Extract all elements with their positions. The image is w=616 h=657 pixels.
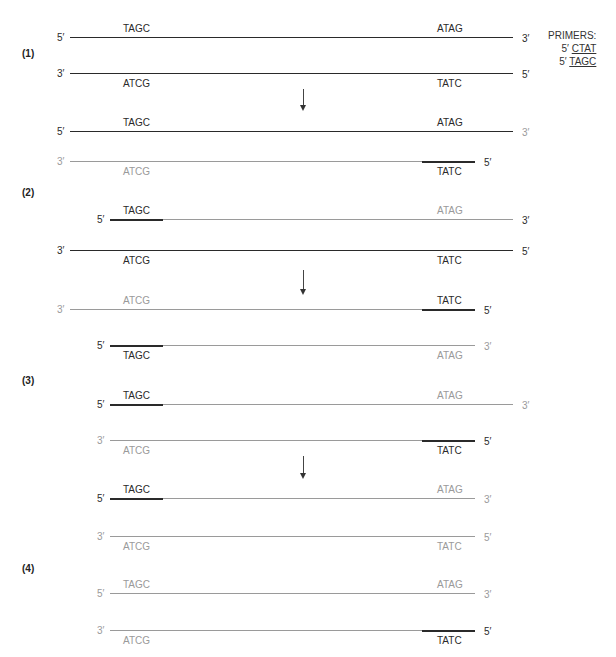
strand-left-end: 3′	[57, 245, 64, 257]
strand-right-end: 5′	[522, 246, 529, 258]
dna-strand	[70, 131, 513, 132]
primer-segment	[422, 630, 475, 632]
dna-strand	[110, 404, 513, 405]
dna-strand	[110, 440, 475, 441]
strand-left-end: 3′	[57, 304, 64, 316]
strand-left-end: 5′	[97, 399, 104, 411]
left-sequence: TAGC	[123, 484, 150, 496]
primer-2: 5′ TAGC	[548, 55, 596, 68]
primer-1-seq: CTAT	[572, 43, 597, 54]
right-sequence: TATC	[437, 445, 462, 457]
primer-2-end: 5′	[559, 56, 566, 67]
dna-strand	[110, 630, 475, 631]
strand-right-end: 5′	[484, 305, 491, 317]
down-arrow-icon	[303, 89, 304, 106]
dna-strand	[70, 309, 475, 310]
left-sequence: TAGC	[123, 117, 150, 129]
left-sequence: TAGC	[123, 390, 150, 402]
step-label: (2)	[22, 187, 34, 198]
right-sequence: ATAG	[437, 390, 463, 402]
left-sequence: ATCG	[123, 541, 150, 553]
primer-segment	[422, 309, 475, 311]
strand-left-end: 5′	[57, 126, 64, 138]
right-sequence: TATC	[437, 166, 462, 178]
strand-right-end: 5′	[522, 69, 529, 81]
strand-right-end: 5′	[484, 436, 491, 448]
dna-strand	[110, 593, 475, 594]
primers-title: PRIMERS:	[548, 29, 596, 42]
strand-left-end: 3′	[57, 68, 64, 80]
right-sequence: TATC	[437, 635, 462, 647]
left-sequence: TAGC	[123, 23, 150, 35]
strand-right-end: 5′	[484, 626, 491, 638]
strand-right-end: 3′	[522, 127, 529, 139]
primer-segment	[110, 219, 163, 221]
left-sequence: ATCG	[123, 166, 150, 178]
strand-left-end: 5′	[97, 214, 104, 226]
primers-legend: PRIMERS: 5′ CTAT 5′ TAGC	[548, 29, 596, 68]
left-sequence: TAGC	[123, 579, 150, 591]
right-sequence: TATC	[437, 295, 462, 307]
primer-segment	[110, 345, 163, 347]
step-label: (1)	[22, 48, 34, 59]
strand-left-end: 3′	[97, 531, 104, 543]
strand-left-end: 5′	[97, 588, 104, 600]
right-sequence: TATC	[437, 541, 462, 553]
strand-left-end: 5′	[97, 340, 104, 352]
strand-right-end: 3′	[522, 215, 529, 227]
left-sequence: ATCG	[123, 78, 150, 90]
dna-strand	[70, 73, 513, 74]
primer-segment	[422, 161, 475, 163]
down-arrow-icon	[303, 456, 304, 474]
strand-left-end: 3′	[97, 625, 104, 637]
left-sequence: TAGC	[123, 205, 150, 217]
dna-strand	[70, 161, 475, 162]
strand-right-end: 3′	[522, 400, 529, 412]
dna-strand	[70, 250, 513, 251]
left-sequence: ATCG	[123, 635, 150, 647]
right-sequence: ATAG	[437, 579, 463, 591]
primer-1: 5′ CTAT	[548, 42, 596, 55]
strand-right-end: 3′	[484, 341, 491, 353]
strand-right-end: 5′	[484, 532, 491, 544]
left-sequence: ATCG	[123, 445, 150, 457]
strand-left-end: 5′	[57, 32, 64, 44]
right-sequence: ATAG	[437, 23, 463, 35]
strand-left-end: 3′	[97, 435, 104, 447]
left-sequence: ATCG	[123, 255, 150, 267]
strand-right-end: 3′	[484, 589, 491, 601]
step-label: (3)	[22, 375, 34, 386]
left-sequence: TAGC	[123, 350, 150, 362]
step-label: (4)	[22, 563, 34, 574]
right-sequence: ATAG	[437, 484, 463, 496]
down-arrow-icon	[303, 270, 304, 290]
primer-1-end: 5′	[562, 43, 569, 54]
primer-segment	[110, 404, 163, 406]
strand-right-end: 3′	[522, 33, 529, 45]
primer-segment	[422, 440, 475, 442]
dna-strand	[110, 536, 475, 537]
right-sequence: ATAG	[437, 350, 463, 362]
right-sequence: TATC	[437, 255, 462, 267]
dna-strand	[110, 345, 475, 346]
left-sequence: ATCG	[123, 295, 150, 307]
primer-2-seq: TAGC	[569, 56, 596, 67]
right-sequence: ATAG	[437, 205, 463, 217]
dna-strand	[70, 37, 513, 38]
primer-segment	[110, 498, 163, 500]
strand-right-end: 3′	[484, 494, 491, 506]
strand-right-end: 5′	[484, 157, 491, 169]
dna-strand	[110, 498, 475, 499]
right-sequence: TATC	[437, 78, 462, 90]
right-sequence: ATAG	[437, 117, 463, 129]
strand-left-end: 3′	[57, 156, 64, 168]
strand-left-end: 5′	[97, 493, 104, 505]
dna-strand	[110, 219, 513, 220]
